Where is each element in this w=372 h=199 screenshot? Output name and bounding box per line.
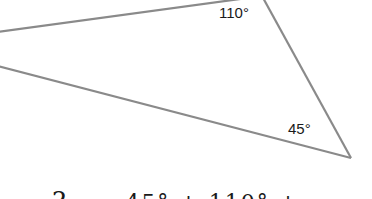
angle-label-bottom-right: 45° <box>288 121 311 136</box>
angle-label-top: 110° <box>219 5 249 20</box>
triangle-figure <box>0 0 372 199</box>
diagram-canvas: 110° 45° ?= 45° + 110° + ... <box>0 0 372 199</box>
equation-line: ?= 45° + 110° + ... <box>52 186 335 199</box>
equation-terms: = 45° + 110° + ... <box>96 190 335 199</box>
equation-unknown: ? <box>52 186 66 199</box>
triangle-edge-bottom <box>0 66 351 158</box>
